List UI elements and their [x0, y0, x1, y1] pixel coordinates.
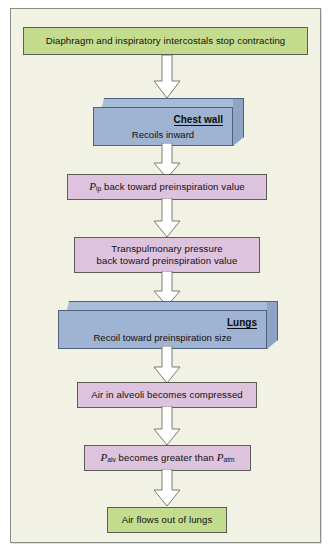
pressure-symbol-palv: Palv [101, 451, 116, 463]
arrow-3-down [153, 198, 181, 238]
chest-wall-body: Recoils inward [94, 125, 232, 140]
lungs-title: Lungs [59, 317, 266, 328]
arrow-6-down [153, 406, 181, 446]
step-air-in-alveoli-compressed: Air in alveoli becomes compressed [77, 382, 257, 408]
step6-label: Air in alveoli becomes compressed [91, 389, 243, 401]
step-chest-wall-prism: Chest wall Recoils inward [93, 98, 244, 146]
step-palv-greater-than-patm: Palv becomes greater than Patm [84, 445, 251, 471]
prism-front-face: Lungs Recoil toward preinspiration size [58, 310, 267, 349]
step-transpulmonary-pressure: Transpulmonary pressure back toward prei… [74, 237, 260, 273]
arrow-5-down [153, 346, 181, 384]
step-lungs-prism: Lungs Recoil toward preinspiration size [58, 301, 278, 349]
flowchart-canvas: Diaphragm and inspiratory intercostals s… [10, 8, 321, 543]
step7-text: Palv becomes greater than Patm [101, 451, 235, 464]
prism-front-face: Chest wall Recoils inward [93, 107, 233, 146]
arrow-1-down [153, 55, 181, 99]
step1-label: Diaphragm and inspiratory intercostals s… [46, 35, 286, 47]
lungs-body: Recoil toward preinspiration size [59, 328, 266, 343]
step4-line1: Transpulmonary pressure [111, 243, 222, 255]
chest-wall-title: Chest wall [94, 114, 232, 125]
pressure-symbol-pip: Pip [89, 180, 101, 192]
step4-line2: back toward preinspiration value [97, 255, 238, 267]
pressure-symbol-patm: Patm [217, 451, 235, 463]
arrow-7-down [153, 469, 181, 507]
step-air-flows-out-of-lungs: Air flows out of lungs [107, 507, 227, 533]
step-pip-back-toward-preinspiration: Pip back toward preinspiration value [67, 174, 267, 200]
step8-label: Air flows out of lungs [122, 514, 213, 526]
step-diaphragm-stop-contracting: Diaphragm and inspiratory intercostals s… [23, 27, 308, 55]
step3-text: Pip back toward preinspiration value [89, 180, 245, 193]
figure-root: Diaphragm and inspiratory intercostals s… [0, 0, 331, 557]
